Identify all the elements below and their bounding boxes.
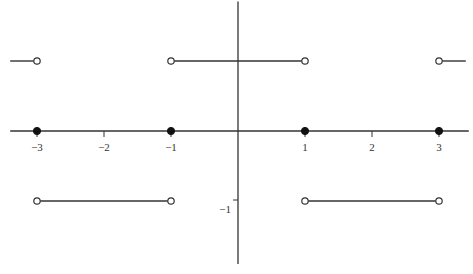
open-endpoint <box>302 58 308 64</box>
x-tick-label: 2 <box>369 141 375 153</box>
filled-point <box>167 127 174 134</box>
filled-point <box>301 127 308 134</box>
open-endpoint <box>168 58 174 64</box>
open-endpoint <box>436 198 442 204</box>
x-tick-label: −3 <box>31 141 43 153</box>
open-endpoint <box>302 198 308 204</box>
open-endpoint <box>34 58 40 64</box>
x-tick-label: −2 <box>98 141 110 153</box>
step-function-chart: −3−2−1123−1 <box>0 0 473 274</box>
axes: −3−2−1123−1 <box>10 2 469 265</box>
open-endpoint <box>436 58 442 64</box>
y-tick-label: −1 <box>219 203 231 215</box>
x-tick-label: 1 <box>302 141 308 153</box>
open-endpoint <box>168 198 174 204</box>
x-tick-label: 3 <box>436 141 442 153</box>
filled-point <box>435 127 442 134</box>
x-tick-label: −1 <box>165 141 177 153</box>
open-endpoint <box>34 198 40 204</box>
filled-point <box>33 127 40 134</box>
